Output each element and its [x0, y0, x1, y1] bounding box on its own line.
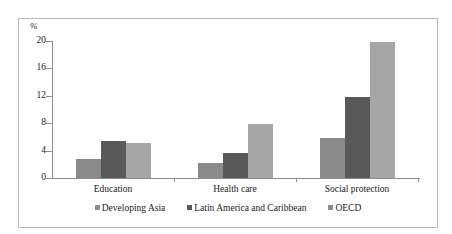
- x-tick-mark: [296, 178, 297, 182]
- x-axis-line: [52, 178, 420, 179]
- bar: [76, 159, 101, 178]
- y-tick-label: 0: [22, 173, 46, 183]
- legend-swatch-icon: [95, 205, 100, 210]
- y-tick-label: 12: [22, 91, 46, 101]
- bar: [101, 141, 126, 178]
- legend-swatch-icon: [328, 205, 333, 210]
- y-tick-label: 20: [22, 36, 46, 46]
- y-tick-label: 8: [22, 118, 46, 128]
- bar: [320, 138, 345, 178]
- bar: [248, 124, 273, 178]
- bar: [126, 143, 151, 178]
- y-tick-label: 4: [22, 146, 46, 156]
- legend-label: OECD: [335, 203, 361, 214]
- y-tick-mark: [46, 178, 52, 179]
- chart-legend: Developing AsiaLatin America and Caribbe…: [18, 203, 438, 214]
- legend-item: OECD: [328, 203, 361, 214]
- category-label: Health care: [175, 184, 295, 194]
- category-label: Education: [53, 184, 173, 194]
- legend-item: Developing Asia: [95, 203, 166, 214]
- bar: [370, 42, 395, 178]
- bar: [223, 153, 248, 178]
- legend-label: Latin America and Caribbean: [194, 203, 306, 214]
- x-tick-mark: [418, 178, 419, 182]
- plot-area: [52, 41, 418, 178]
- legend-label: Developing Asia: [102, 203, 166, 214]
- y-axis-unit-label: %: [30, 22, 38, 31]
- x-tick-mark: [174, 178, 175, 182]
- legend-swatch-icon: [187, 205, 192, 210]
- y-tick-label: 16: [22, 63, 46, 73]
- category-label: Social protection: [297, 184, 417, 194]
- bar: [345, 97, 370, 179]
- chart-figure: % 048121620 EducationHealth careSocial p…: [0, 0, 452, 234]
- bar: [198, 163, 223, 178]
- legend-item: Latin America and Caribbean: [187, 203, 306, 214]
